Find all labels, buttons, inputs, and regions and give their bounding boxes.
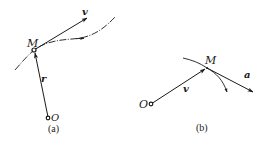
panel-b: M v a O (b) xyxy=(139,54,253,134)
label-o-b: O xyxy=(139,98,148,111)
origin-o-b xyxy=(149,102,153,106)
panel-a: M v r O (a) xyxy=(15,6,115,135)
label-a: a xyxy=(244,69,250,80)
label-v-a: v xyxy=(82,6,88,17)
origin-o-a xyxy=(46,116,50,120)
label-m-a: M xyxy=(26,37,39,50)
kinematics-diagram: M v r O (a) M v a O (b) xyxy=(0,0,263,146)
label-r: r xyxy=(41,73,47,84)
point-m-b xyxy=(206,67,208,69)
label-o-a: O xyxy=(51,112,59,123)
caption-b: (b) xyxy=(196,122,208,134)
label-m-b: M xyxy=(204,54,217,67)
velocity-vector-b xyxy=(151,69,205,104)
velocity-vector-a xyxy=(34,18,87,50)
position-vector-r xyxy=(35,53,48,117)
label-v-b: v xyxy=(183,83,189,94)
caption-a: (a) xyxy=(48,123,59,135)
